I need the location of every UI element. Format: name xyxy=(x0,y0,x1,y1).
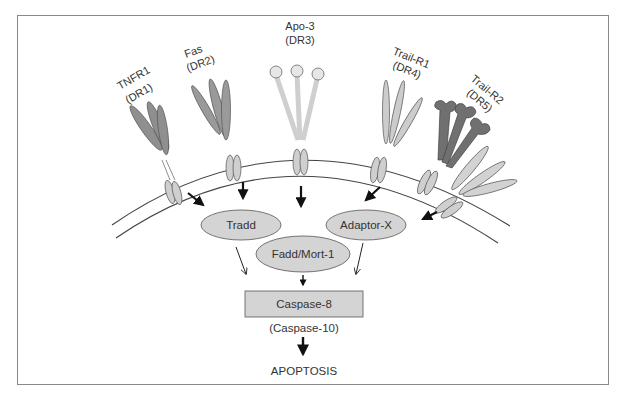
svg-text:Caspase-8: Caspase-8 xyxy=(276,298,332,310)
svg-text:Tradd: Tradd xyxy=(226,219,256,231)
apoptosis-pathway-diagram: TNFR1 (DR1) Fas (DR2) Apo-3 ( xyxy=(0,0,631,401)
adaptor-fadd-mort1: Fadd/Mort-1 xyxy=(256,236,350,272)
svg-text:Fadd/Mort-1: Fadd/Mort-1 xyxy=(272,248,335,260)
receptor-trailr1: Trail-R1 (DR4) xyxy=(369,45,432,184)
svg-text:Adaptor-X: Adaptor-X xyxy=(340,219,392,231)
receptor-tnfr1: TNFR1 (DR1) xyxy=(115,64,184,206)
caspase-10-label: (Caspase-10) xyxy=(269,322,339,334)
apo3-alt-label: (DR3) xyxy=(285,34,314,46)
receptor-fas: Fas (DR2) xyxy=(183,42,241,181)
adaptor-adaptor-x: Adaptor-X xyxy=(326,210,406,240)
adaptor-tradd: Tradd xyxy=(201,210,281,240)
caspase-8-box: Caspase-8 xyxy=(245,291,363,317)
apo3-label: Apo-3 xyxy=(285,20,314,32)
apoptosis-label: APOPTOSIS xyxy=(271,365,338,377)
receptor-apo3: Apo-3 (DR3) xyxy=(270,20,324,175)
